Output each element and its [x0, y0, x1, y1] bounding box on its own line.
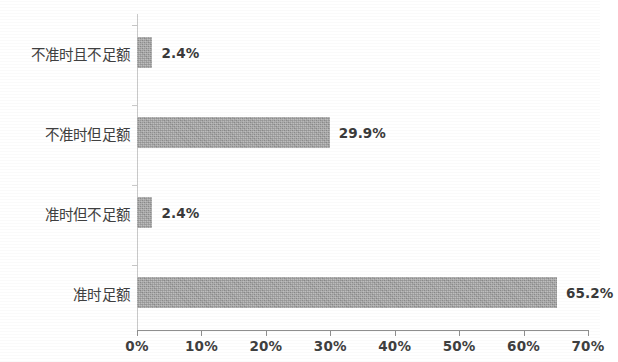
- category-label: 准时但不足额: [0, 203, 130, 224]
- x-axis-tick: [459, 331, 460, 336]
- category-label: 不准时但足额: [0, 123, 130, 144]
- category-label: 准时足额: [0, 283, 130, 304]
- x-axis-tick-label: 0%: [107, 338, 167, 354]
- x-axis-tick: [266, 331, 267, 336]
- bar: [137, 37, 152, 68]
- x-axis-tick: [330, 331, 331, 336]
- x-axis-tick: [395, 331, 396, 336]
- y-axis-tick: [132, 105, 137, 106]
- x-axis-tick-label: 20%: [236, 338, 296, 354]
- bar-value-label: 29.9%: [339, 125, 386, 141]
- x-axis-tick: [524, 331, 525, 336]
- x-axis-tick-label: 10%: [171, 338, 231, 354]
- bar-value-label: 2.4%: [161, 45, 199, 61]
- category-label: 不准时且不足额: [0, 43, 130, 64]
- x-axis-tick-label: 30%: [300, 338, 360, 354]
- x-axis-tick: [137, 331, 138, 336]
- bar-value-label: 2.4%: [161, 205, 199, 221]
- x-axis-tick-label: 60%: [494, 338, 554, 354]
- bar-value-label: 65.2%: [566, 285, 613, 301]
- x-axis-tick: [588, 331, 589, 336]
- x-axis-tick-label: 50%: [429, 338, 489, 354]
- x-axis-line: [137, 330, 589, 331]
- x-axis-tick-label: 70%: [558, 338, 618, 354]
- x-axis-tick-label: 40%: [365, 338, 425, 354]
- bar: [137, 117, 330, 148]
- y-axis-tick: [132, 185, 137, 186]
- y-axis-tick: [132, 265, 137, 266]
- bar: [137, 277, 557, 308]
- y-axis-tick: [132, 25, 137, 26]
- bar: [137, 197, 152, 228]
- x-axis-tick: [201, 331, 202, 336]
